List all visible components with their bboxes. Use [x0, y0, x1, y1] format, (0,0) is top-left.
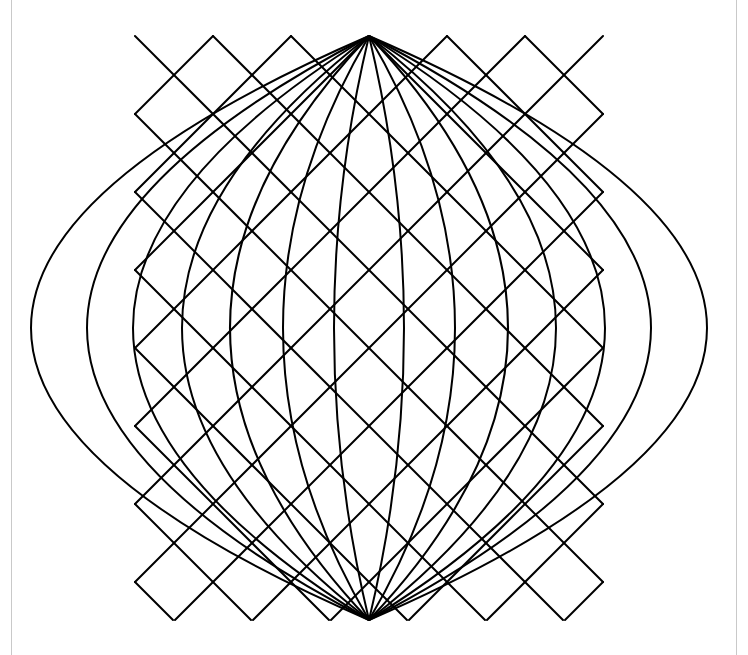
- concentric-lens-diamond-figure: [0, 0, 748, 655]
- diagonal-down-right-4-seg1: [253, 270, 603, 620]
- diagonal-down-right-3-seg1: [331, 348, 603, 620]
- lens-arc-right-2: [369, 36, 651, 620]
- lens-arc-right-6: [369, 36, 455, 620]
- diagonal-down-left-2-seg2: [565, 582, 603, 620]
- diagonal-down-right-6-seg2: [135, 582, 173, 620]
- diagonal-down-left-5-seg1: [135, 348, 407, 620]
- lens-arcs-group: [31, 36, 707, 620]
- diagonal-lattice-group: [135, 36, 603, 620]
- diagonal-down-left-4-seg1: [135, 270, 485, 620]
- lens-arc-left-6: [283, 36, 369, 620]
- figure-page: [0, 0, 748, 655]
- lens-arc-left-2: [87, 36, 369, 620]
